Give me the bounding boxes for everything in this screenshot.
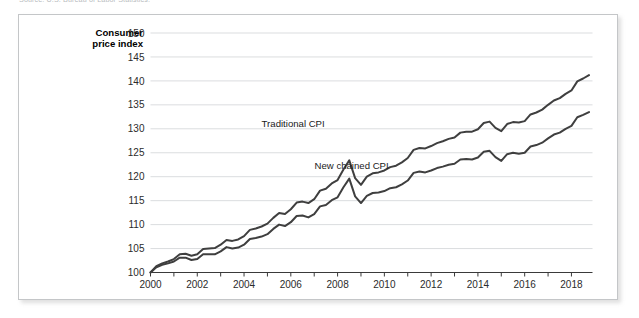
y-tick-label: 125 xyxy=(128,147,145,158)
x-axis-tick-labels: 2000200220042006200820102012201420162018 xyxy=(139,279,583,290)
x-tick-label: 2000 xyxy=(139,279,162,290)
y-axis-title-line2: price index xyxy=(92,38,143,49)
y-tick-label: 100 xyxy=(128,267,145,278)
x-tick-label: 2018 xyxy=(560,279,583,290)
y-axis-title: Consumer price index xyxy=(92,27,143,49)
y-tick-label: 105 xyxy=(128,243,145,254)
y-tick-label: 120 xyxy=(128,171,145,182)
annotation-traditional-cpi: Traditional CPI xyxy=(262,118,325,129)
x-tick-label: 2014 xyxy=(467,279,490,290)
x-tick-label: 2010 xyxy=(373,279,396,290)
y-tick-label: 130 xyxy=(128,123,145,134)
x-tick-label: 2002 xyxy=(186,279,209,290)
annotation-new-chained-cpi: New chained CPI xyxy=(315,160,389,171)
y-axis-title-line1: Consumer xyxy=(96,27,144,38)
y-axis-tick-labels: 100105110115120125130135140145150 xyxy=(128,28,145,279)
x-tick-label: 2004 xyxy=(233,279,256,290)
y-tick-label: 110 xyxy=(129,219,145,230)
x-tick-label: 2016 xyxy=(514,279,537,290)
chart-canvas: 100105110115120125130135140145150 200020… xyxy=(0,0,639,318)
x-tick-label: 2012 xyxy=(420,279,443,290)
y-tick-label: 140 xyxy=(128,76,145,87)
cpi-line-chart: 100105110115120125130135140145150 200020… xyxy=(0,0,639,318)
y-tick-label: 145 xyxy=(128,52,145,63)
x-tick-label: 2008 xyxy=(326,279,349,290)
x-axis xyxy=(151,273,593,277)
y-tick-label: 115 xyxy=(129,195,145,206)
gridlines xyxy=(151,33,593,249)
series-annotations: Traditional CPINew chained CPI xyxy=(262,118,389,171)
x-tick-label: 2006 xyxy=(280,279,303,290)
y-tick-label: 135 xyxy=(128,99,145,110)
